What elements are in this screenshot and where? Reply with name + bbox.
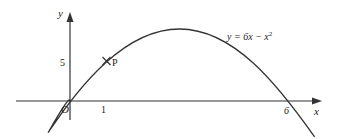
y-tick-5-label: 5 xyxy=(60,57,65,68)
x-tick-1-label: 1 xyxy=(101,104,106,115)
parabola-curve xyxy=(48,29,315,137)
point-p-label: P xyxy=(112,57,118,68)
y-axis-arrow-icon xyxy=(67,12,74,22)
x-tick-6-label: 6 xyxy=(284,105,289,116)
point-p-cross-icon xyxy=(103,57,111,65)
origin-label: O xyxy=(61,103,69,115)
x-axis-arrow-icon xyxy=(312,98,322,105)
graph-canvas: y x O 1 6 5 P y = 6x − x2 xyxy=(0,0,337,139)
y-axis-label: y xyxy=(57,7,63,19)
curve-equation-label: y = 6x − x2 xyxy=(226,30,273,42)
x-axis-label: x xyxy=(313,105,319,117)
